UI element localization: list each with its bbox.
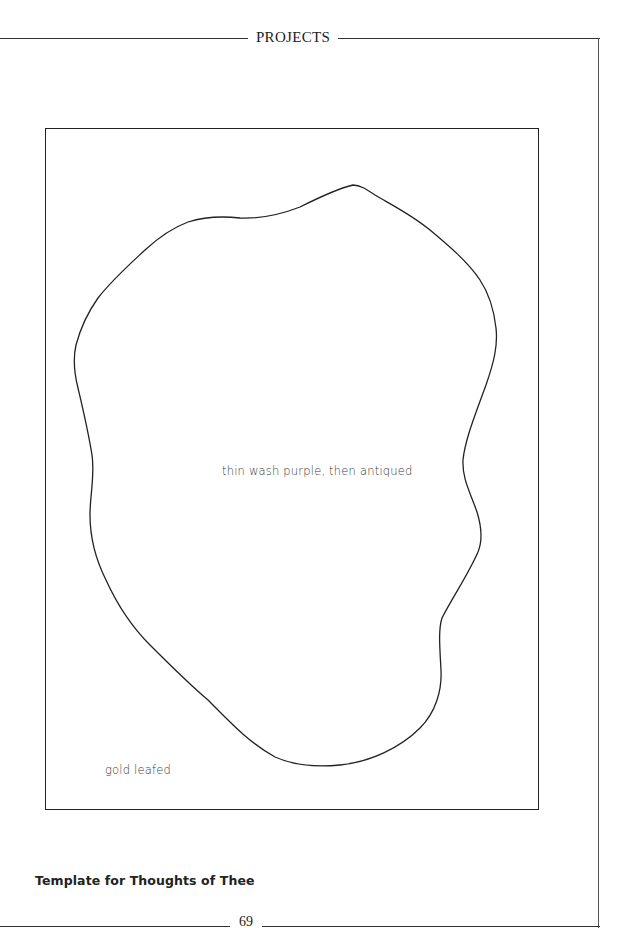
page-right-rule xyxy=(598,38,599,928)
footer-rule-left xyxy=(0,926,230,927)
header-rule-left xyxy=(0,38,248,39)
header-rule-right xyxy=(338,38,600,39)
footer-rule-right xyxy=(262,926,600,927)
page-number: 69 xyxy=(230,914,262,928)
interior-finish-note: thin wash purple, then antiqued xyxy=(222,464,413,478)
figure-caption: Template for Thoughts of Thee xyxy=(35,873,255,888)
running-head: PROJECTS xyxy=(248,29,338,46)
border-finish-note: gold leafed xyxy=(105,763,171,777)
